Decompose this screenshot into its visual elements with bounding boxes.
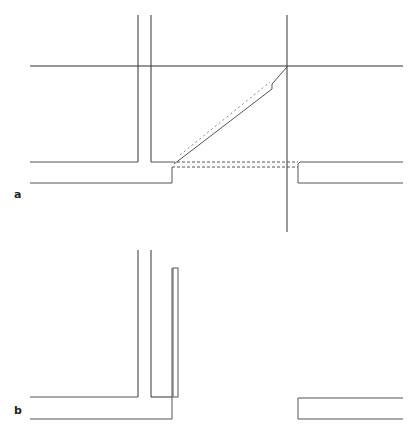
bottom-right-block bbox=[298, 398, 403, 419]
bottom-right-edge bbox=[298, 162, 403, 183]
panel-a-label: a bbox=[14, 188, 21, 201]
wall-left-inner bbox=[151, 250, 172, 397]
panel-b-label: b bbox=[14, 404, 22, 417]
diagonal-dotted-line bbox=[180, 82, 270, 155]
diagram-canvas: a b bbox=[0, 0, 417, 432]
inserted-panel bbox=[173, 268, 178, 397]
diagonal-fold-line bbox=[174, 67, 287, 164]
bottom-left-lower-edge bbox=[30, 167, 172, 183]
panel-a: a bbox=[14, 15, 403, 232]
panel-b: b bbox=[14, 250, 403, 419]
